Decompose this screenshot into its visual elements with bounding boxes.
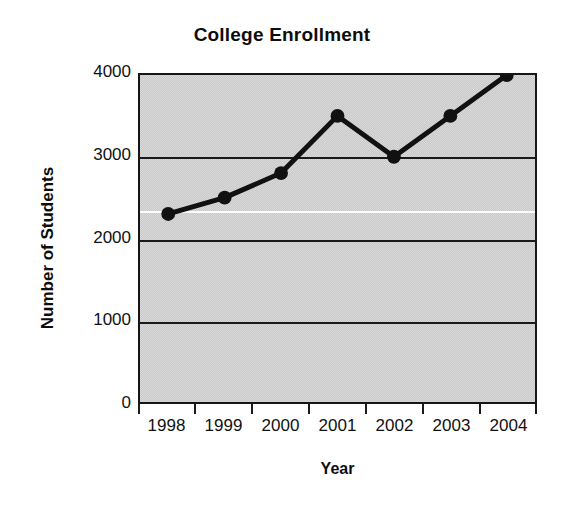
y-axis-tick-labels: 01000200030004000 <box>0 0 131 507</box>
x-tick-mark <box>365 404 367 414</box>
data-point-1998[interactable] <box>161 207 175 221</box>
x-tick-label-2001: 2001 <box>319 416 357 436</box>
enrollment-line-series <box>140 75 535 402</box>
x-axis-tick-labels: 1998199920002001200220032004 <box>138 416 537 440</box>
data-point-1999[interactable] <box>218 191 232 205</box>
x-tick-label-2004: 2004 <box>490 416 528 436</box>
x-tick-mark <box>138 404 140 414</box>
x-tick-mark <box>479 404 481 414</box>
chart-canvas: College Enrollment 01000200030004000 Num… <box>0 0 564 507</box>
x-tick-label-2002: 2002 <box>376 416 414 436</box>
x-tick-label-2003: 2003 <box>433 416 471 436</box>
data-point-2002[interactable] <box>387 150 401 164</box>
y-tick-label-2000: 2000 <box>0 228 131 248</box>
data-point-2000[interactable] <box>274 166 288 180</box>
x-tick-label-2000: 2000 <box>262 416 300 436</box>
x-tick-mark <box>194 404 196 414</box>
data-point-2003[interactable] <box>443 109 457 123</box>
x-axis-ticks <box>138 404 537 414</box>
x-tick-mark <box>308 404 310 414</box>
data-point-2001[interactable] <box>331 109 345 123</box>
plot-area <box>138 73 537 404</box>
x-axis-title: Year <box>138 460 537 478</box>
x-tick-mark <box>535 404 537 414</box>
x-tick-mark <box>422 404 424 414</box>
y-tick-label-4000: 4000 <box>0 62 131 82</box>
y-axis-title: Number of Students <box>38 128 58 368</box>
y-tick-label-1000: 1000 <box>0 310 131 330</box>
y-tick-label-0: 0 <box>0 393 131 413</box>
x-tick-label-1998: 1998 <box>148 416 186 436</box>
x-tick-label-1999: 1999 <box>205 416 243 436</box>
x-tick-mark <box>251 404 253 414</box>
y-tick-label-3000: 3000 <box>0 145 131 165</box>
